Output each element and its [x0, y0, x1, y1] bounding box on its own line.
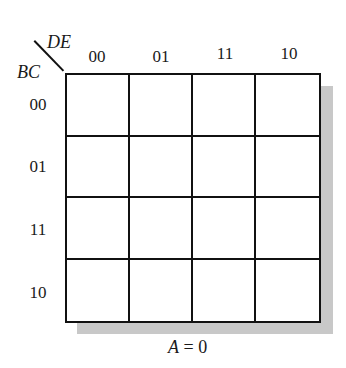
kmap-cell	[67, 260, 130, 322]
column-label-00: 00	[77, 47, 117, 67]
row-label-11: 11	[18, 220, 58, 240]
kmap-cell	[130, 198, 193, 260]
kmap-grid	[65, 73, 321, 323]
row-variables-label: BC	[17, 62, 40, 83]
kmap-cell	[67, 198, 130, 260]
caption-value: = 0	[179, 337, 207, 357]
kmap-caption: A = 0	[168, 337, 207, 358]
kmap-cell	[130, 75, 193, 137]
caption-variable: A	[168, 337, 179, 357]
column-label-01: 01	[141, 47, 181, 67]
kmap-cell	[130, 260, 193, 322]
kmap-cell	[256, 75, 319, 137]
row-label-01: 01	[18, 157, 58, 177]
kmap-cell	[130, 137, 193, 199]
kmap-cell	[193, 137, 256, 199]
row-label-10: 10	[18, 283, 58, 303]
kmap-cell	[193, 260, 256, 322]
column-variables-label: DE	[47, 32, 71, 53]
column-label-11: 11	[205, 44, 245, 64]
kmap-cell	[193, 198, 256, 260]
kmap-cell	[193, 75, 256, 137]
row-label-00: 00	[18, 95, 58, 115]
kmap-cell	[256, 260, 319, 322]
kmap-cell	[67, 137, 130, 199]
kmap-cell	[67, 75, 130, 137]
column-label-10: 10	[269, 44, 309, 64]
kmap-cell	[256, 198, 319, 260]
kmap-cell	[256, 137, 319, 199]
